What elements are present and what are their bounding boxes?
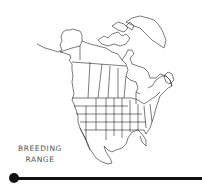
us-state-lines <box>74 98 152 140</box>
west-coast-outline <box>69 60 172 164</box>
greenland-outline <box>126 16 166 48</box>
us-canada-border <box>72 92 160 104</box>
label-line-2: RANGE <box>12 154 68 165</box>
hudson-bay-outline <box>122 50 172 86</box>
florida-outline <box>138 130 146 146</box>
arctic-islands <box>98 22 134 46</box>
northern-canada-outline <box>82 41 140 94</box>
breeding-range-label: BREEDING RANGE <box>12 143 68 165</box>
newfoundland-outline <box>164 72 174 84</box>
breeding-range-figure: BREEDING RANGE <box>0 0 202 192</box>
alaska-outline <box>37 29 82 60</box>
timeline-bar <box>14 177 202 180</box>
timeline-dot <box>9 173 19 183</box>
label-line-1: BREEDING <box>12 143 68 154</box>
